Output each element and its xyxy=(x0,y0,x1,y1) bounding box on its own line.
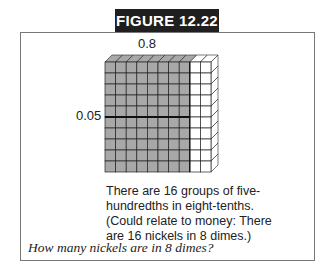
description-line: There are 16 groups of five- xyxy=(106,184,306,199)
figure-description: There are 16 groups of five- hundredths … xyxy=(106,184,306,244)
description-line: hundredths in eight-tenths. xyxy=(106,199,306,214)
question-text: How many nickels are in 8 dimes? xyxy=(28,240,213,256)
description-line: (Could relate to money: There xyxy=(106,214,306,229)
